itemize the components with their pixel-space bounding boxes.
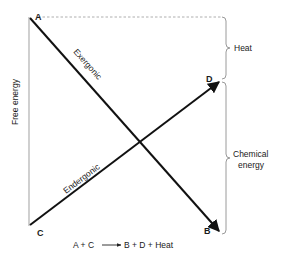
chemical-label-line2: energy	[238, 160, 265, 170]
point-b-label: B	[204, 226, 211, 236]
y-axis-label: Free energy	[10, 78, 20, 125]
chemical-energy-brace	[222, 82, 230, 234]
chemical-label-line1: Chemical	[233, 149, 269, 159]
point-c-label: C	[37, 228, 44, 238]
heat-label: Heat	[234, 43, 253, 53]
exergonic-line	[30, 18, 219, 231]
equation-left: A + C	[73, 240, 94, 250]
heat-brace	[222, 17, 230, 79]
point-d-label: D	[206, 74, 213, 84]
exergonic-label: Exergonic	[72, 47, 105, 82]
equation-right: B + D + Heat	[124, 240, 174, 250]
energy-diagram: A C D B Exergonic Endergonic Heat Chemic…	[0, 0, 282, 258]
endergonic-label: Endergonic	[61, 161, 102, 195]
point-a-label: A	[35, 12, 42, 22]
endergonic-line	[30, 82, 219, 225]
